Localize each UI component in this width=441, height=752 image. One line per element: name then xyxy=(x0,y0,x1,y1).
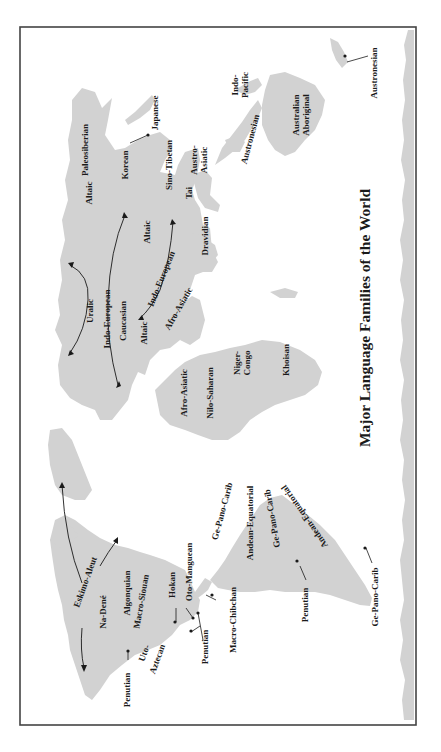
label-aboriginal: Aboriginal xyxy=(301,94,311,136)
landmass-new-zealand xyxy=(330,38,348,68)
label-ge-pano-carib-south: Ge-Pano-Carib xyxy=(370,568,380,627)
landmass-antarctica xyxy=(400,30,414,720)
label-dravidian: Dravidian xyxy=(200,216,210,255)
label-niger: Niger- xyxy=(232,351,242,375)
label-penutian-sa: Penutian xyxy=(300,588,310,623)
label-na-dene: Na-Dené xyxy=(98,595,108,629)
label-japanese: Japanese xyxy=(150,95,160,130)
landmass-madagascar xyxy=(270,288,298,298)
label-indo-pacific-2: Pacific xyxy=(240,72,250,98)
label-penutian-na: Penutian xyxy=(122,673,132,708)
label-australian: Australian xyxy=(291,94,301,135)
label-ge-pano-carib-north: Ge-Pano-Carib xyxy=(210,481,235,541)
map-title: Major Language Families of the World xyxy=(356,189,373,448)
label-austronesian-nz: Austronesian xyxy=(369,48,379,99)
label-korean: Korean xyxy=(120,151,130,180)
label-oto-manguean: Oto-Manguean xyxy=(184,543,194,602)
label-altaic-central: Altaic xyxy=(142,221,152,244)
label-hokan: Hokan xyxy=(167,572,177,598)
label-tai: Tai xyxy=(184,186,194,199)
label-sino-tibetan: Sino-Tibetan xyxy=(164,140,174,190)
label-austro-2: Asiatic xyxy=(199,147,209,174)
language-families-map: Paleosiberian Japanese Korean Indo- Paci… xyxy=(0,0,441,752)
landmass-greenland xyxy=(48,428,92,500)
label-caucasian: Caucasian xyxy=(118,301,128,341)
label-algonquian: Algonquian xyxy=(122,570,132,615)
label-penutian-ca: Penutian xyxy=(200,630,210,665)
label-austro-1: Austro- xyxy=(189,145,199,174)
label-paleosiberian: Paleosiberian xyxy=(80,124,90,176)
label-altaic-north: Altaic xyxy=(84,182,94,205)
label-afro-asiatic-africa: Afro-Asiatic xyxy=(179,369,189,416)
label-indo-european-west: Indo-European xyxy=(102,290,112,349)
label-indo-pacific-1: Indo- xyxy=(230,74,240,95)
label-altaic-turkey: Altaic xyxy=(139,322,149,345)
label-macro-chibchan: Macro-Chibchan xyxy=(228,587,238,653)
label-andean-equatorial-1: Andean-Equatorial xyxy=(245,485,255,560)
label-khoisan: Khoisan xyxy=(281,344,291,376)
label-nilo-saharan: Nilo-Saharan xyxy=(205,367,215,419)
label-congo: Congo xyxy=(242,350,252,376)
label-uralic: Uralic xyxy=(85,299,95,323)
